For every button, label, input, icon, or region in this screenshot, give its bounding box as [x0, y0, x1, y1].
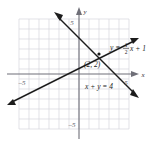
x-tick-positive-5: 5 [124, 79, 128, 87]
equation-fraction-denominator: 2 [125, 49, 128, 55]
equation-fraction-numerator: 1 [125, 42, 128, 48]
y-axis-label: y [82, 8, 87, 16]
equation-label-line1-tail: x + 1 [129, 44, 146, 53]
y-axis-arrow-icon [76, 7, 82, 15]
graph-svg: x y –5 5 5 –5 y = 1 2 x + 1 x + y = 4 (2… [0, 0, 156, 143]
x-tick-negative-5: –5 [18, 79, 27, 87]
intersection-point-label: (2, 2) [84, 60, 101, 69]
graph-figure: x y –5 5 5 –5 y = 1 2 x + 1 x + y = 4 (2… [0, 0, 156, 143]
equation-label-line1-head: y = [109, 43, 120, 52]
equation-label-line2: x + y = 4 [84, 82, 113, 91]
x-axis-label: x [140, 71, 145, 79]
x-axis-arrow-icon [131, 71, 139, 77]
intersection-marker [97, 52, 100, 55]
y-tick-negative-5: –5 [68, 121, 77, 129]
y-tick-positive-5: 5 [70, 19, 74, 27]
